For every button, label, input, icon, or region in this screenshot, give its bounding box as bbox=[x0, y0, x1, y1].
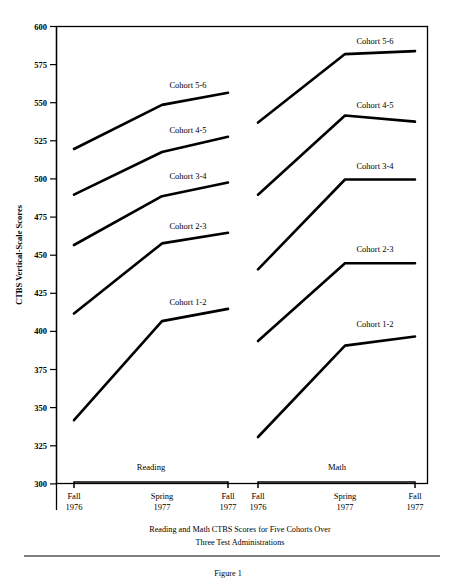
math-xtick-fall-1976: Fall 1976 bbox=[250, 491, 267, 512]
xtick-label-line1: Fall bbox=[251, 491, 265, 501]
series-label-math-cohort-4-5: Cohort 4-5 bbox=[356, 100, 393, 110]
ctbs-scores-chart: 600 575 550 525 500 475 450 425 400 375 … bbox=[0, 0, 451, 581]
y-tick-label: 425 bbox=[34, 288, 47, 298]
y-tick-label: 300 bbox=[34, 479, 47, 489]
y-tick-label: 475 bbox=[34, 212, 47, 222]
y-tick-label: 525 bbox=[34, 136, 47, 146]
series-label-math-cohort-3-4: Cohort 3-4 bbox=[356, 161, 394, 171]
y-tick-label: 500 bbox=[34, 174, 47, 184]
y-tick-label: 575 bbox=[34, 60, 47, 70]
y-tick-label: 550 bbox=[34, 98, 47, 108]
y-tick-label: 400 bbox=[34, 326, 47, 336]
panel-label-reading: Reading bbox=[137, 462, 166, 472]
series-label-math-cohort-1-2: Cohort 1-2 bbox=[356, 319, 393, 329]
y-tick-label: 325 bbox=[34, 441, 47, 451]
caption-line-1: Reading and Math CTBS Scores for Five Co… bbox=[149, 525, 331, 534]
figure-number: Figure 1 bbox=[214, 569, 242, 578]
xtick-label-line1: Spring bbox=[334, 491, 357, 501]
y-tick-label: 600 bbox=[34, 22, 47, 32]
series-label-reading-cohort-3-4: Cohort 3-4 bbox=[169, 171, 207, 181]
series-label-reading-cohort-5-6: Cohort 5-6 bbox=[169, 80, 206, 90]
reading-xtick-fall-1977: Fall 1977 bbox=[220, 491, 237, 512]
xtick-label-line2: 1977 bbox=[407, 502, 424, 512]
series-label-reading-cohort-1-2: Cohort 1-2 bbox=[169, 297, 206, 307]
xtick-label-line1: Fall bbox=[221, 491, 235, 501]
y-tick-label: 350 bbox=[34, 403, 47, 413]
series-label-math-cohort-2-3: Cohort 2-3 bbox=[356, 244, 393, 254]
math-xtick-fall-1977: Fall 1977 bbox=[407, 491, 424, 512]
panel-label-math: Math bbox=[328, 462, 347, 472]
reading-xtick-fall-1976: Fall 1976 bbox=[66, 491, 83, 512]
caption-line-2: Three Test Administrations bbox=[196, 538, 285, 547]
xtick-label-line2: 1977 bbox=[154, 502, 171, 512]
y-tick-label: 375 bbox=[34, 365, 47, 375]
series-label-reading-cohort-4-5: Cohort 4-5 bbox=[169, 125, 206, 135]
xtick-label-line1: Fall bbox=[408, 491, 422, 501]
figure-root: 600 575 550 525 500 475 450 425 400 375 … bbox=[0, 0, 451, 581]
xtick-label-line1: Fall bbox=[67, 491, 81, 501]
xtick-label-line2: 1976 bbox=[250, 502, 267, 512]
series-label-reading-cohort-2-3: Cohort 2-3 bbox=[169, 221, 206, 231]
xtick-label-line2: 1976 bbox=[66, 502, 83, 512]
xtick-label-line1: Spring bbox=[151, 491, 174, 501]
y-tick-label: 450 bbox=[34, 250, 47, 260]
xtick-label-line2: 1977 bbox=[337, 502, 354, 512]
y-axis-title: CTBS Vertical-Scale Scores bbox=[14, 204, 24, 305]
xtick-label-line2: 1977 bbox=[220, 502, 237, 512]
series-label-math-cohort-5-6: Cohort 5-6 bbox=[356, 36, 393, 46]
